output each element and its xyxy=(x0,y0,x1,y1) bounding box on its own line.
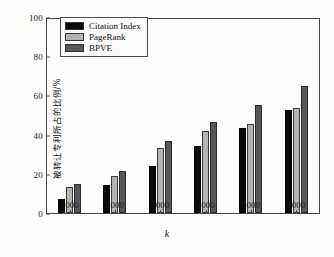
x-axis-label: k xyxy=(0,228,334,239)
legend-label: Citation Index xyxy=(89,21,141,31)
y-axis-tick-label: 40 xyxy=(13,131,43,141)
y-axis-tick-label: 20 xyxy=(13,170,43,180)
x-axis-tick-mark xyxy=(296,210,297,214)
bar-group xyxy=(194,19,217,213)
y-axis-tick-label: 100 xyxy=(13,13,43,23)
y-axis-tick-mark xyxy=(46,214,50,215)
y-axis-tick-label: 60 xyxy=(13,91,43,101)
legend-item: Citation Index xyxy=(65,21,141,31)
x-axis-tick-mark xyxy=(115,210,116,214)
bar-group xyxy=(285,19,308,213)
y-axis-tick-label: 80 xyxy=(13,52,43,62)
x-axis-tick-label: 6000 xyxy=(269,200,323,210)
legend-swatch-icon xyxy=(65,22,84,30)
x-axis-tick-mark xyxy=(70,210,71,214)
bar xyxy=(255,105,262,213)
legend-label: PageRank xyxy=(89,32,126,42)
legend-label: BPVE xyxy=(89,43,112,53)
bar-chart-figure: 被转让专利所占的比例/% 020406080100 10002000300040… xyxy=(0,0,334,257)
bar xyxy=(301,86,308,213)
x-axis-tick-mark xyxy=(251,210,252,214)
bar-group xyxy=(149,19,172,213)
legend-item: PageRank xyxy=(65,32,141,42)
x-axis-tick-mark xyxy=(206,210,207,214)
y-axis-tick-label: 0 xyxy=(13,209,43,219)
bar xyxy=(293,108,300,213)
legend-item: BPVE xyxy=(65,43,141,53)
legend-swatch-icon xyxy=(65,33,84,41)
bar xyxy=(285,110,292,213)
bar-group xyxy=(239,19,262,213)
chart-legend: Citation Index PageRank BPVE xyxy=(60,17,148,57)
legend-swatch-icon xyxy=(65,44,84,52)
x-axis-tick-mark xyxy=(160,210,161,214)
